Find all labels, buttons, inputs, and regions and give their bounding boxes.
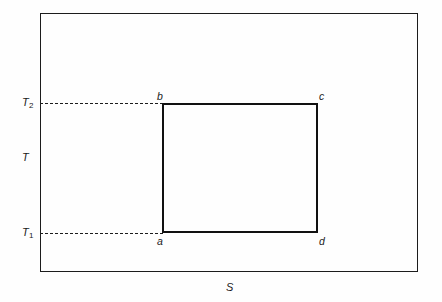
axis-label-t: T [22, 152, 29, 163]
tick-label-t2-subscript: 2 [29, 101, 33, 110]
dashed-guide-line-t1 [40, 233, 163, 234]
corner-label-a: a [157, 236, 163, 247]
tick-label-t2-symbol: T [22, 96, 29, 108]
tick-label-t2: T2 [22, 97, 33, 110]
tick-label-t1-subscript: 1 [29, 231, 33, 240]
axis-label-s: S [226, 282, 233, 293]
corner-label-c: c [319, 91, 324, 102]
inner-region-rectangle-abcd [162, 103, 318, 233]
corner-label-d: d [319, 236, 325, 247]
figure-canvas: T2 T1 T S a b c d [0, 0, 442, 302]
corner-label-b: b [157, 91, 163, 102]
dashed-guide-line-t2 [40, 103, 163, 104]
tick-label-t1-symbol: T [22, 226, 29, 238]
tick-label-t1: T1 [22, 227, 33, 240]
